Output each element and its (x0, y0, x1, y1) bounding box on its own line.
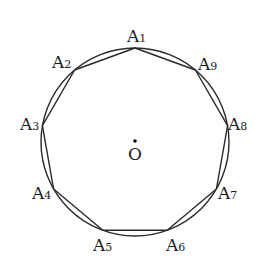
nonagon-polygon (42, 48, 227, 230)
center-point (133, 139, 137, 143)
vertex-subscript: 7 (230, 189, 237, 202)
vertex-subscript: 8 (240, 120, 247, 133)
vertex-subscript: 1 (139, 32, 146, 45)
nonagon-diagram: O A1A2A3A4A5A6A7A8A9 (0, 0, 267, 271)
vertex-subscript: 9 (210, 60, 217, 73)
vertex-subscript: 3 (32, 120, 39, 133)
vertex-label-a3: A3 (19, 114, 39, 134)
vertex-subscript: 6 (178, 241, 185, 254)
vertex-label-a8: A8 (227, 114, 247, 134)
vertex-label-a5: A5 (92, 235, 112, 255)
vertex-label-a2: A2 (51, 52, 71, 72)
vertex-label-a7: A7 (217, 183, 237, 203)
vertex-label-a6: A6 (165, 235, 185, 255)
vertex-subscript: 2 (64, 58, 71, 71)
vertex-subscript: 5 (105, 241, 112, 254)
center-label: O (128, 144, 142, 164)
vertex-labels: A1A2A3A4A5A6A7A8A9 (19, 26, 247, 255)
vertex-subscript: 4 (44, 189, 51, 202)
vertex-label-a9: A9 (197, 54, 217, 74)
vertex-label-a4: A4 (31, 183, 51, 203)
vertex-label-a1: A1 (126, 26, 146, 46)
